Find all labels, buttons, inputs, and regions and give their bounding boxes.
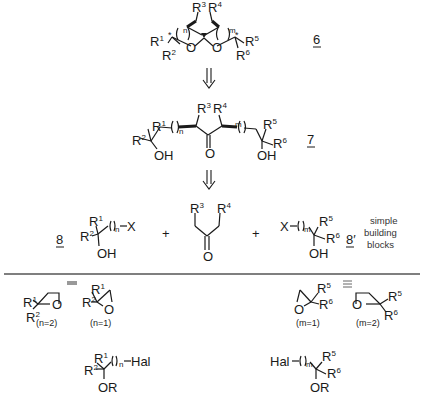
retrosynthesis-scheme: R3 R4 n m R1 R2 O O R5 R6 * * 6 bbox=[0, 0, 428, 411]
epoxide-m1: R5 R6 O (m=1) bbox=[294, 281, 333, 328]
halide-left: Hal bbox=[131, 354, 151, 369]
leaving-group-x-right: X bbox=[280, 219, 289, 234]
svg-text:R2: R2 bbox=[162, 48, 176, 63]
svg-text:R2: R2 bbox=[132, 133, 146, 148]
svg-text:R5: R5 bbox=[388, 289, 402, 304]
epoxide-n1: R1 R2 O (n=1) bbox=[82, 282, 114, 328]
svg-text:*: * bbox=[168, 30, 172, 40]
halide-right: Hal bbox=[270, 354, 290, 369]
compound-7-dihydroxy-ketone: R3 R4 n m R1 R2 O OH OH R5 R6 bbox=[132, 101, 287, 163]
protected-halide-left: R1 R2 n Hal OR bbox=[84, 351, 151, 395]
svg-text:blocks: blocks bbox=[367, 239, 394, 250]
ketone-oxygen: O bbox=[205, 146, 215, 161]
svg-text:R2: R2 bbox=[80, 229, 94, 244]
svg-text:m: m bbox=[304, 225, 311, 234]
svg-text:R5: R5 bbox=[319, 214, 333, 229]
protected-hydroxyl-right: OR bbox=[310, 380, 330, 395]
r5-label: R bbox=[245, 34, 254, 49]
plus-sign-2: + bbox=[252, 226, 260, 241]
hydroxyl-left: OH bbox=[154, 148, 174, 163]
retro-arrow-1 bbox=[203, 68, 215, 88]
svg-text:O: O bbox=[52, 297, 62, 312]
equivalence-symbol-right bbox=[343, 281, 352, 287]
svg-text:building: building bbox=[364, 227, 397, 238]
building-block-8: R1 R2 n X OH bbox=[80, 214, 136, 261]
compound-number-6: 6 bbox=[313, 32, 320, 47]
svg-text:simple: simple bbox=[370, 215, 397, 226]
svg-text:OH: OH bbox=[97, 246, 117, 261]
retro-arrow-2 bbox=[203, 170, 215, 189]
svg-text:R2: R2 bbox=[84, 363, 98, 378]
svg-text:R1: R1 bbox=[89, 214, 103, 229]
condition-n2: (n=2) bbox=[36, 318, 57, 328]
condition-n1: (n=1) bbox=[90, 318, 111, 328]
svg-text:n: n bbox=[119, 360, 123, 369]
oxygen-left: O bbox=[186, 40, 196, 55]
svg-text:R5: R5 bbox=[317, 281, 331, 296]
n-index: n bbox=[183, 26, 187, 35]
svg-text:O: O bbox=[294, 302, 304, 317]
protected-halide-right: Hal m R5 R6 OR bbox=[270, 349, 341, 395]
building-block-8-prime: X m R5 R6 OH bbox=[280, 214, 340, 261]
svg-text:*: * bbox=[235, 30, 239, 40]
protected-hydroxyl-left: OR bbox=[98, 380, 118, 395]
svg-text:R4: R4 bbox=[213, 101, 227, 116]
equivalence-symbol-left bbox=[67, 281, 77, 285]
svg-text:O: O bbox=[104, 302, 114, 317]
r3-label: R bbox=[192, 0, 201, 15]
svg-text:R5: R5 bbox=[263, 117, 277, 132]
svg-text:R4: R4 bbox=[217, 201, 231, 216]
plus-sign-1: + bbox=[162, 226, 170, 241]
svg-text:R6: R6 bbox=[319, 297, 333, 312]
r6-label: R bbox=[236, 48, 245, 63]
svg-text:m: m bbox=[306, 360, 313, 369]
oxetane-m2: O R5 R6 (m=2) bbox=[352, 289, 402, 328]
svg-text:OH: OH bbox=[309, 246, 329, 261]
svg-text:R5: R5 bbox=[322, 349, 336, 364]
svg-text:R4: R4 bbox=[208, 0, 222, 15]
oxetane-n2: R1 R2 O (n=2) bbox=[23, 293, 62, 328]
r1-label: R bbox=[150, 34, 159, 49]
svg-text:R6: R6 bbox=[326, 231, 340, 246]
oxygen-right: O bbox=[212, 40, 222, 55]
compound-number-7: 7 bbox=[307, 132, 314, 147]
svg-text:R6: R6 bbox=[273, 136, 287, 151]
r4-label: R bbox=[208, 0, 217, 15]
svg-text:R6: R6 bbox=[236, 48, 250, 63]
svg-text:n: n bbox=[179, 127, 183, 136]
condition-m1: (m=1) bbox=[296, 318, 320, 328]
condition-m2: (m=2) bbox=[356, 318, 380, 328]
svg-text:R3: R3 bbox=[192, 0, 206, 15]
svg-text:R1: R1 bbox=[23, 295, 37, 310]
svg-text:n: n bbox=[115, 225, 119, 234]
r2-label: R bbox=[162, 48, 171, 63]
svg-text:O: O bbox=[203, 249, 213, 264]
svg-text:R1: R1 bbox=[152, 119, 166, 134]
compound-6-spiroketal: R3 R4 n m R1 R2 O O R5 R6 * * bbox=[150, 0, 259, 63]
ketone-building-block: R3 R4 O bbox=[190, 201, 231, 264]
leaving-group-x-left: X bbox=[127, 219, 136, 234]
svg-text:R3: R3 bbox=[197, 101, 211, 116]
svg-text:R2: R2 bbox=[82, 295, 96, 310]
simple-building-blocks-note: simple building blocks bbox=[364, 215, 397, 250]
svg-text:R6: R6 bbox=[384, 308, 398, 323]
svg-text:R5: R5 bbox=[245, 34, 259, 49]
compound-number-8: 8 bbox=[56, 232, 63, 247]
svg-text:m: m bbox=[235, 120, 242, 129]
svg-text:R1: R1 bbox=[150, 34, 164, 49]
svg-text:R6: R6 bbox=[327, 366, 341, 381]
svg-text:O: O bbox=[352, 297, 362, 312]
svg-text:R3: R3 bbox=[190, 201, 204, 216]
compound-number-8-prime: 8′ bbox=[346, 232, 356, 247]
